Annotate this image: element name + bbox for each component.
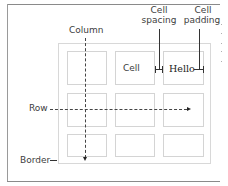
row-dashed-line [50, 109, 187, 110]
table-cell-r3c1 [67, 134, 107, 157]
table-cell-r1c3: Hello [163, 51, 204, 85]
table-cell-r2c3 [163, 93, 204, 127]
cell-padding-span [194, 69, 203, 70]
table-cell-r2c2 [115, 93, 155, 127]
edge-dot [221, 51, 222, 52]
table-cell-r1c1 [67, 51, 107, 85]
cell-text: Cell [123, 63, 140, 73]
edge-dot [221, 61, 222, 62]
border-pointer-line [50, 160, 57, 161]
table-cell-r3c3 [163, 134, 204, 157]
column-dashed-line [85, 38, 86, 158]
cell-spacing-tick-left [155, 66, 156, 73]
table-cell-r3c2 [115, 134, 155, 157]
table-cell-r1c2: Cell [115, 51, 155, 85]
border-label: Border [20, 155, 50, 165]
column-label: Column [69, 25, 103, 35]
cell-padding-pointer [199, 29, 200, 70]
frame-left-border [7, 4, 8, 182]
cell-spacing-label-line2: spacing [140, 15, 178, 25]
arrow-right-icon [187, 107, 191, 111]
edge-dot [221, 43, 222, 44]
edge-dot [221, 33, 222, 34]
cell-text-hello: Hello [169, 63, 195, 74]
arrow-down-icon [83, 157, 87, 161]
frame-bottom-border [7, 181, 220, 182]
cell-padding-tick-right [203, 66, 204, 73]
cell-spacing-pointer [159, 29, 160, 70]
table-cell-r2c1 [67, 93, 107, 127]
cell-padding-label-line1: Cell [186, 5, 220, 15]
cell-spacing-label-line1: Cell [142, 5, 176, 15]
cell-spacing-tick-right [162, 66, 163, 73]
cell-padding-label-line2: padding [182, 15, 222, 25]
row-label: Row [29, 103, 48, 113]
